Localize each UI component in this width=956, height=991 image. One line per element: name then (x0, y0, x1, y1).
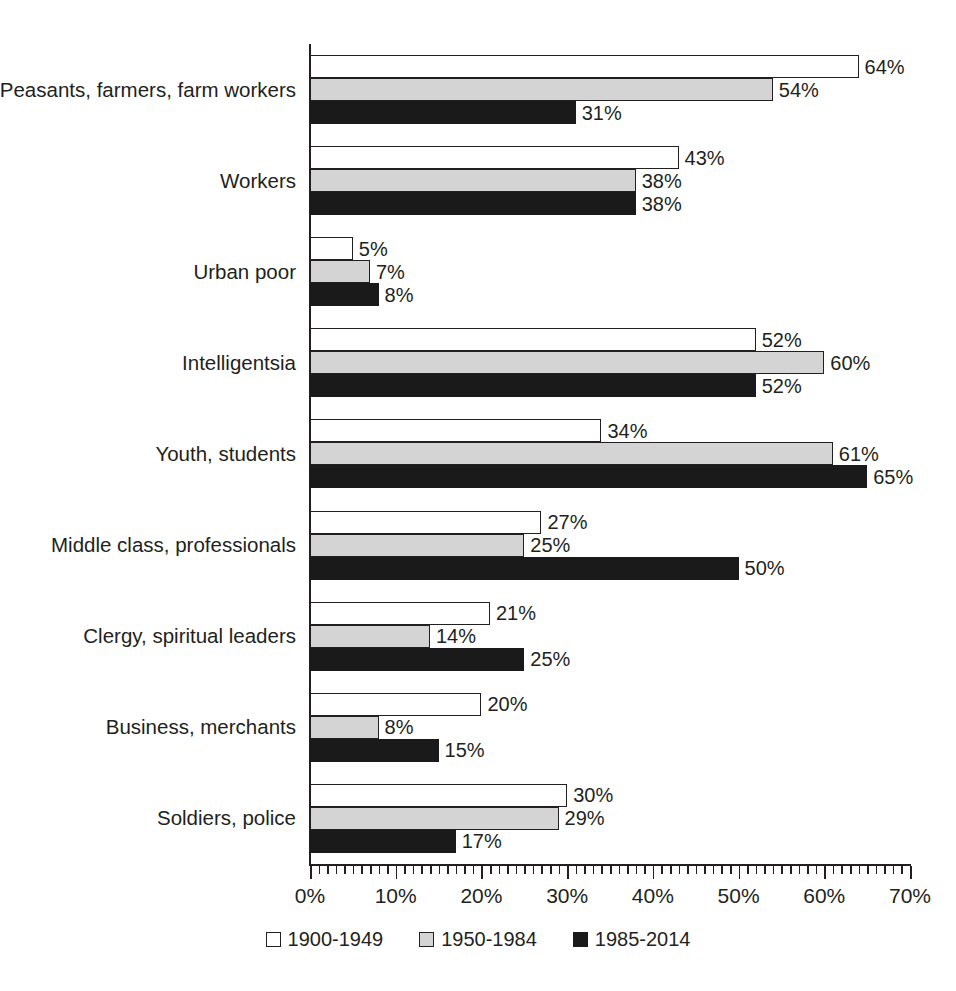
axis-minor-tick (576, 866, 578, 874)
bar[interactable] (310, 237, 353, 260)
axis-minor-tick (447, 866, 449, 874)
bar[interactable] (310, 534, 524, 557)
category-label: Middle class, professionals (0, 500, 296, 591)
bar[interactable] (310, 169, 636, 192)
axis-minor-tick (319, 866, 321, 874)
axis-minor-tick (344, 866, 346, 874)
axis-minor-tick (644, 866, 646, 874)
legend-label: 1985-2014 (595, 928, 691, 951)
bar[interactable] (310, 557, 739, 580)
axis-minor-tick (593, 866, 595, 874)
axis-minor-tick (799, 866, 801, 874)
bar-row: 61% (310, 442, 910, 465)
axis-minor-tick (516, 866, 518, 874)
bar[interactable] (310, 260, 370, 283)
axis-minor-tick (816, 866, 818, 874)
bar[interactable] (310, 465, 867, 488)
axis-minor-tick (524, 866, 526, 874)
x-tick-label: 0% (295, 884, 325, 908)
bar-row: 38% (310, 169, 910, 192)
axis-minor-tick (499, 866, 501, 874)
axis-major-tick (396, 866, 398, 879)
bar-row: 8% (310, 283, 910, 306)
axis-minor-tick (490, 866, 492, 874)
bar[interactable] (310, 784, 567, 807)
bar-group: 34%61%65% (310, 408, 910, 499)
bar-row: 21% (310, 602, 910, 625)
bar[interactable] (310, 283, 379, 306)
bar-row: 29% (310, 807, 910, 830)
bar[interactable] (310, 374, 756, 397)
axis-minor-tick (876, 866, 878, 874)
axis-minor-tick (670, 866, 672, 874)
x-tick-label: 20% (460, 884, 502, 908)
bar[interactable] (310, 351, 824, 374)
bar-row: 27% (310, 511, 910, 534)
bar-row: 52% (310, 374, 910, 397)
axis-minor-tick (713, 866, 715, 874)
bar[interactable] (310, 101, 576, 124)
axis-minor-tick (850, 866, 852, 874)
bar[interactable] (310, 625, 430, 648)
axis-minor-tick (550, 866, 552, 874)
bar-row: 17% (310, 830, 910, 853)
legend-item[interactable]: 1985-2014 (573, 928, 691, 951)
bar[interactable] (310, 693, 481, 716)
legend-item[interactable]: 1950-1984 (419, 928, 537, 951)
category-axis-labels: Peasants, farmers, farm workersWorkersUr… (0, 44, 296, 864)
bar-row: 30% (310, 784, 910, 807)
bar[interactable] (310, 511, 541, 534)
bar-value-label: 25% (524, 535, 570, 555)
plot-area: 64%54%31%43%38%38%5%7%8%52%60%52%34%61%6… (310, 44, 910, 864)
axis-major-tick (653, 866, 655, 879)
axis-minor-tick (370, 866, 372, 874)
x-tick-label: 70% (889, 884, 931, 908)
bar[interactable] (310, 716, 379, 739)
bar-value-label: 61% (833, 444, 879, 464)
bar[interactable] (310, 55, 859, 78)
axis-minor-tick (773, 866, 775, 874)
axis-minor-tick (361, 866, 363, 874)
bar[interactable] (310, 419, 601, 442)
bar[interactable] (310, 328, 756, 351)
category-label: Youth, students (0, 408, 296, 499)
axis-minor-tick (439, 866, 441, 874)
bar-value-label: 54% (773, 80, 819, 100)
bar-value-label: 31% (576, 103, 622, 123)
bar-row: 54% (310, 78, 910, 101)
axis-minor-tick (464, 866, 466, 874)
axis-minor-tick (507, 866, 509, 874)
legend-label: 1900-1949 (288, 928, 384, 951)
bar-group: 5%7%8% (310, 226, 910, 317)
bar[interactable] (310, 602, 490, 625)
bar-value-label: 65% (867, 467, 913, 487)
chart-legend: 1900-19491950-19841985-2014 (0, 928, 956, 951)
axis-minor-tick (884, 866, 886, 874)
bar-value-label: 27% (541, 512, 587, 532)
bar[interactable] (310, 146, 679, 169)
bar[interactable] (310, 648, 524, 671)
bar-value-label: 17% (456, 831, 502, 851)
axis-minor-tick (661, 866, 663, 874)
axis-minor-tick (533, 866, 535, 874)
bar-group: 30%29%17% (310, 773, 910, 864)
axis-minor-tick (336, 866, 338, 874)
bar[interactable] (310, 807, 559, 830)
axis-minor-tick (413, 866, 415, 874)
bar[interactable] (310, 830, 456, 853)
axis-minor-tick (841, 866, 843, 874)
bar[interactable] (310, 739, 439, 762)
bar[interactable] (310, 192, 636, 215)
x-axis (310, 864, 910, 882)
gray-square-icon (419, 932, 434, 947)
axis-minor-tick (404, 866, 406, 874)
bar[interactable] (310, 442, 833, 465)
bar-group: 27%25%50% (310, 500, 910, 591)
axis-major-tick (567, 866, 569, 879)
axis-minor-tick (704, 866, 706, 874)
bar[interactable] (310, 78, 773, 101)
legend-item[interactable]: 1900-1949 (266, 928, 384, 951)
axis-minor-tick (559, 866, 561, 874)
x-tick-label: 30% (546, 884, 588, 908)
bar-value-label: 60% (824, 353, 870, 373)
